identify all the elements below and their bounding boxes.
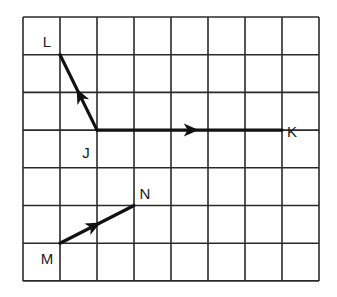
diagram-canvas: L J K M N	[0, 0, 337, 297]
label-J: J	[82, 144, 90, 161]
label-M: M	[41, 250, 54, 267]
label-N: N	[140, 185, 151, 202]
vector-grid-diagram: L J K M N	[0, 0, 337, 297]
label-L: L	[43, 33, 51, 50]
label-K: K	[287, 123, 297, 140]
grid	[23, 17, 319, 281]
